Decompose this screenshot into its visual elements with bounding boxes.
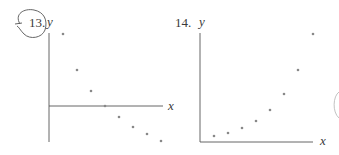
plot-13-x-label: x xyxy=(168,99,174,112)
plot-14 xyxy=(200,33,314,142)
data-point xyxy=(160,140,163,143)
data-point xyxy=(118,116,121,119)
data-point xyxy=(269,109,272,112)
data-point xyxy=(132,126,135,129)
data-point xyxy=(62,33,65,36)
handwritten-tick-mark xyxy=(15,23,22,24)
plot-14-points xyxy=(213,33,315,138)
data-point xyxy=(104,105,107,108)
data-point xyxy=(312,33,315,36)
plot-14-number: 14. xyxy=(175,16,191,29)
plot-13 xyxy=(49,33,163,143)
data-point xyxy=(255,120,258,123)
data-point xyxy=(241,127,244,130)
plot-13-y-label: y xyxy=(47,15,53,28)
plot-13-points xyxy=(62,33,163,143)
plot-14-x-label: x xyxy=(320,134,326,147)
data-point xyxy=(213,135,216,138)
data-point xyxy=(283,93,286,96)
edge-curve-mark xyxy=(334,92,339,118)
data-point xyxy=(297,69,300,72)
data-point xyxy=(146,133,149,136)
data-point xyxy=(76,69,79,72)
plot-13-number: 13. xyxy=(29,16,45,29)
data-point xyxy=(90,90,93,93)
plot-14-y-label: y xyxy=(199,15,205,28)
data-point xyxy=(227,132,230,135)
